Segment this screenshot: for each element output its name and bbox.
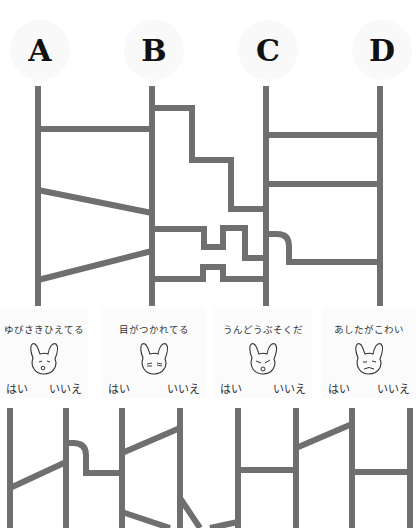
yes-option[interactable]: はい bbox=[6, 380, 28, 396]
question-card-1: ゆびさきひえてる はい いいえ bbox=[0, 308, 88, 398]
rabbit-tired-icon bbox=[135, 340, 173, 376]
rabbit-inactive-icon bbox=[244, 340, 282, 376]
question-text: ゆびさきひえてる bbox=[0, 322, 88, 336]
question-text: うんどうぶそくだ bbox=[214, 322, 312, 336]
question-card-3: うんどうぶそくだ はい いいえ bbox=[214, 308, 312, 398]
question-card-4: あしたがこわい はい いいえ bbox=[322, 308, 416, 398]
question-card-2: 目がつかれてる はい いいえ bbox=[102, 308, 206, 398]
question-text: 目がつかれてる bbox=[102, 322, 206, 336]
question-text: あしたがこわい bbox=[322, 322, 416, 336]
no-option[interactable]: いいえ bbox=[377, 380, 410, 396]
no-option[interactable]: いいえ bbox=[273, 380, 306, 396]
ladder-top bbox=[0, 0, 416, 310]
rabbit-worried-icon bbox=[350, 340, 388, 376]
yes-option[interactable]: はい bbox=[108, 380, 130, 396]
no-option[interactable]: いいえ bbox=[49, 380, 82, 396]
no-option[interactable]: いいえ bbox=[167, 380, 200, 396]
yes-option[interactable]: はい bbox=[220, 380, 242, 396]
yes-option[interactable]: はい bbox=[328, 380, 350, 396]
rabbit-cold-icon bbox=[25, 340, 63, 376]
